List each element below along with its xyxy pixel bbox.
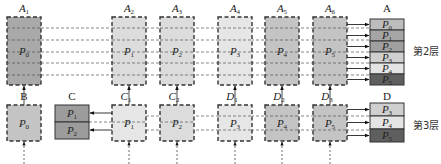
top-column-a5: A5P4 — [265, 2, 299, 85]
layer-3-label: 第3层 — [413, 119, 439, 131]
stack-d-cell: P5 — [370, 129, 404, 143]
stack-d-cell: P3 — [370, 103, 404, 117]
stack-a: AP0P1P2P3P4P5第2层 — [370, 2, 439, 87]
stack-c-label: C — [68, 90, 75, 102]
column-label: A2 — [123, 2, 135, 16]
stack-a-label: A — [383, 2, 391, 14]
column-label: D3 — [320, 90, 333, 104]
top-column-a1: A1P0 — [7, 2, 41, 85]
top-column-a2: A2P1 — [112, 2, 146, 85]
column-label: C2 — [169, 90, 180, 104]
column-label: A1 — [18, 2, 30, 16]
column-label: D1 — [225, 90, 238, 104]
top-column-a3: A3P2 — [160, 2, 194, 85]
stack-d-label: D — [383, 90, 391, 102]
layer-2-label: 第2层 — [413, 45, 439, 57]
column-label: A4 — [229, 2, 241, 16]
column-label: C1 — [121, 90, 132, 104]
stack-c: CP1P2 — [55, 90, 89, 139]
column-label: A6 — [324, 2, 336, 16]
stack-d: DP3P4P5第3层 — [370, 90, 439, 143]
top-column-a4: A4P3 — [218, 2, 252, 85]
column-label: A5 — [276, 2, 288, 16]
stack-c-cell: P2 — [55, 122, 89, 139]
top-column-a6: A6P5 — [313, 2, 347, 85]
stack-d-cell: P4 — [370, 116, 404, 130]
column-label: A3 — [171, 2, 183, 16]
stack-c-cell: P1 — [55, 105, 89, 122]
top-row-columns: A1P0A2P1A3P2A4P3A5P4A6P5 — [7, 2, 347, 85]
partition-diagram: A1P0A2P1A3P2A4P3A5P4A6P5 AP0P1P2P3P4P5第2… — [0, 0, 441, 164]
column-label: D2 — [272, 90, 285, 104]
stack-a-cell: P5 — [370, 73, 404, 87]
